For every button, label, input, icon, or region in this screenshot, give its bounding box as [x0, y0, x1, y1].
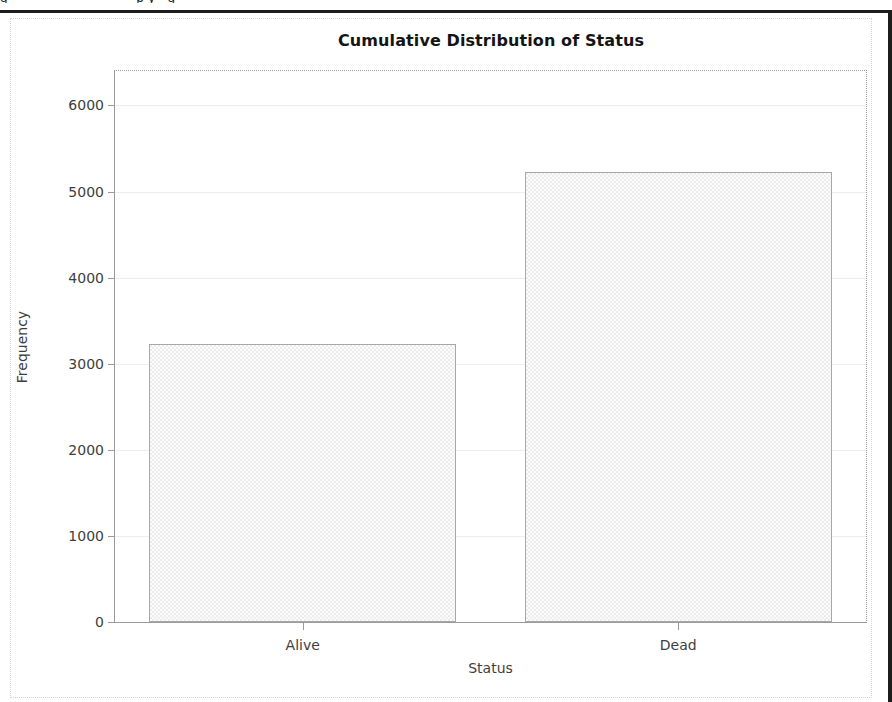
y-axis-tick-label: 2000	[68, 442, 104, 458]
window-border-top	[0, 10, 892, 13]
y-axis-tick-mark	[108, 450, 115, 451]
y-axis-tick-mark	[108, 105, 115, 106]
plot-inner: 0100020003000400050006000	[115, 71, 866, 622]
y-axis-tick-mark	[108, 364, 115, 365]
bar[interactable]	[149, 344, 456, 622]
y-axis-title: Frequency	[14, 311, 30, 383]
x-axis-tick-mark	[303, 622, 304, 630]
x-axis-category-label: Dead	[660, 637, 697, 653]
x-axis-title: Status	[114, 660, 867, 676]
y-axis-tick-label: 5000	[68, 184, 104, 200]
plot-area: 0100020003000400050006000	[114, 70, 867, 623]
y-axis-tick-label: 1000	[68, 528, 104, 544]
y-axis-tick-mark	[108, 278, 115, 279]
window-border-right	[888, 10, 892, 702]
y-axis-tick-label: 3000	[68, 356, 104, 372]
gridline	[115, 105, 866, 106]
bar[interactable]	[525, 172, 832, 622]
y-axis-tick-mark	[108, 622, 115, 623]
y-axis-tick-mark	[108, 192, 115, 193]
y-axis-tick-mark	[108, 536, 115, 537]
y-axis-tick-label: 0	[95, 614, 104, 630]
y-axis-tick-label: 4000	[68, 270, 104, 286]
clipped-header-text: g p y g	[0, 0, 892, 3]
y-axis-tick-label: 6000	[68, 97, 104, 113]
chart-title: Cumulative Distribution of Status	[114, 31, 868, 50]
x-axis-category-label: Alive	[286, 637, 320, 653]
screenshot-root: g p y g Cumulative Distribution of Statu…	[0, 0, 892, 702]
x-axis-tick-mark	[678, 622, 679, 630]
